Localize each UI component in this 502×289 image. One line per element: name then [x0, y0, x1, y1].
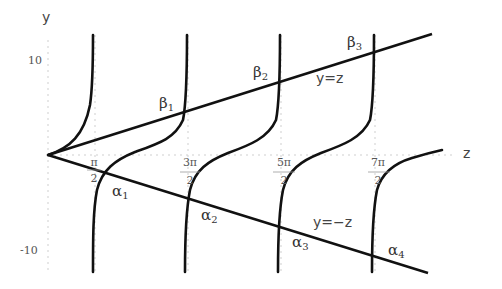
svg-text:2: 2 — [91, 172, 98, 185]
svg-text:7π: 7π — [371, 156, 385, 169]
tan-branch-0 — [48, 35, 93, 155]
alpha-2-label: α2 — [201, 206, 218, 225]
beta-1-label: β1 — [159, 94, 174, 113]
svg-text:3π: 3π — [183, 156, 197, 169]
z-axis-label: z — [463, 145, 470, 161]
label-y-equals-z: y=z — [316, 70, 343, 86]
guide-lines — [48, 35, 455, 275]
label-y-equals-minus-z: y=−z — [313, 214, 352, 230]
beta-3-label: β3 — [347, 33, 362, 52]
svg-text:2: 2 — [375, 174, 382, 187]
y-axis-label: y — [42, 9, 50, 25]
svg-text:π: π — [90, 156, 97, 169]
y-tick-minus-10: -10 — [20, 244, 38, 257]
svg-text:2: 2 — [187, 174, 194, 187]
svg-text:5π: 5π — [277, 156, 291, 169]
alpha-4-label: α4 — [388, 241, 405, 260]
tan-branch-1 — [93, 35, 187, 272]
beta-2-label: β2 — [253, 63, 268, 82]
svg-text:2: 2 — [281, 174, 288, 187]
alpha-1-label: α1 — [112, 182, 129, 201]
y-tick-10: 10 — [28, 54, 42, 67]
tan-intersection-diagram: y z 10 -10 π 2 3π 2 5π 2 7π 2 y=z y=−z β… — [0, 0, 502, 289]
x-tick-3pi-over-2: 3π 2 — [180, 156, 200, 187]
